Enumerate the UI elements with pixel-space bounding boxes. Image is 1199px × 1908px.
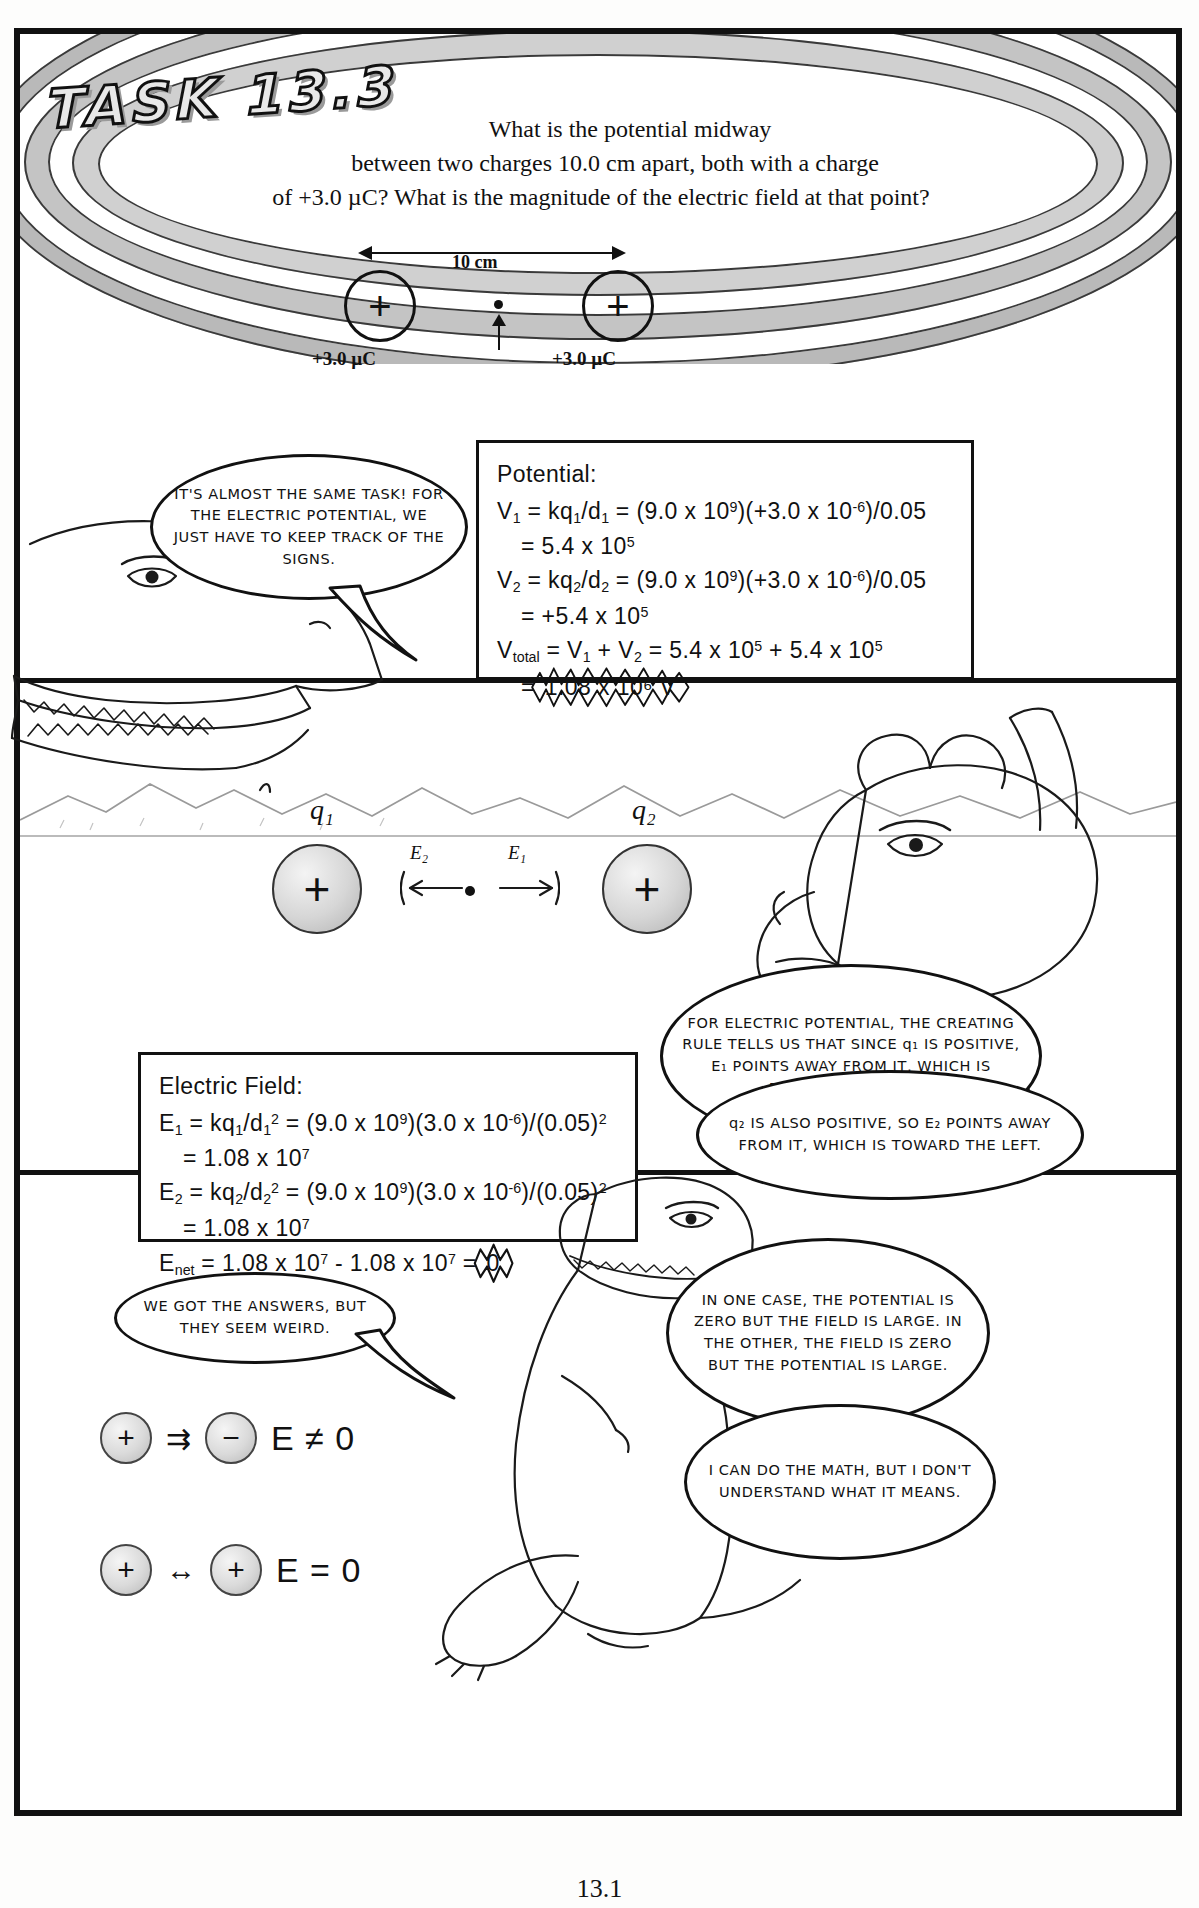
speech-balloon-6-text: I CAN DO THE MATH, BUT I DON'T UNDERSTAN… xyxy=(705,1460,975,1504)
summary-row-like-charges: + ↔ + E = 0 xyxy=(100,1544,361,1596)
q2-label: q₂ xyxy=(632,794,656,826)
top-charge-diagram: 10 cm + + +3.0 µC +3.0 µC xyxy=(320,230,680,370)
field-answer: 0 xyxy=(487,1250,500,1276)
summary-row2-arrow-icon: ↔ xyxy=(166,1553,196,1587)
midpoint-arrow-shaft xyxy=(498,320,500,350)
summary-row-unlike-charges: + ⇉ − E ≠ 0 xyxy=(100,1412,355,1464)
minus-icon: − xyxy=(222,1421,240,1455)
field-line-2: = 1.08 x 107 xyxy=(159,1141,617,1176)
potential-formula-box: Potential: V1 = kq1/d1 = (9.0 x 109)(+3.… xyxy=(476,440,974,680)
field-line-3: E2 = kq2/d22 = (9.0 x 109)(3.0 x 10-6)/(… xyxy=(159,1175,617,1210)
potential-box-heading: Potential: xyxy=(497,457,953,492)
midpoint-dot xyxy=(494,300,503,309)
summary-row1-equation: E ≠ 0 xyxy=(271,1419,355,1458)
top-left-charge-label: +3.0 µC xyxy=(312,348,376,370)
potential-line-4: = +5.4 x 105 xyxy=(497,599,953,634)
speech-balloon-5: IN ONE CASE, THE POTENTIAL IS ZERO BUT T… xyxy=(666,1238,990,1428)
potential-answer: 1.08 x 10⁶ V xyxy=(545,674,676,700)
q1-label: q₁ xyxy=(310,794,334,826)
problem-line-2: between two charges 10.0 cm apart, both … xyxy=(240,146,990,180)
speech-balloon-1-text: IT'S ALMOST THE SAME TASK! FOR THE ELECT… xyxy=(171,484,447,571)
plus-icon: + xyxy=(304,862,331,916)
potential-line-6: = 1.08 x 10⁶ V xyxy=(497,669,953,706)
plus-icon: + xyxy=(368,286,391,326)
e2-label: E₂ xyxy=(410,842,428,864)
potential-line-1: V1 = kq1/d1 = (9.0 x 109)(+3.0 x 10-6)/0… xyxy=(497,494,953,529)
field-line-4: = 1.08 x 107 xyxy=(159,1211,617,1246)
mid-right-charge: + xyxy=(602,844,692,934)
summary-row2-equation: E = 0 xyxy=(276,1551,361,1590)
speech-balloon-4: WE GOT THE ANSWERS, BUT THEY SEEM WEIRD. xyxy=(114,1272,396,1364)
arrow-right-icon xyxy=(612,246,626,260)
field-formula-box: Electric Field: E1 = kq1/d12 = (9.0 x 10… xyxy=(138,1052,638,1242)
top-right-charge-label: +3.0 µC xyxy=(552,348,616,370)
summary-row1-arrow-icon: ⇉ xyxy=(166,1421,191,1456)
summary-row1-right-charge: − xyxy=(205,1412,257,1464)
mid-left-charge: + xyxy=(272,844,362,934)
potential-line-3: V2 = kq2/d2 = (9.0 x 109)(+3.0 x 10-6)/0… xyxy=(497,563,953,598)
problem-line-3: of +3.0 µC? What is the magnitude of the… xyxy=(212,180,990,214)
speech-balloon-3-text: q₂ IS ALSO POSITIVE, SO E₂ POINTS AWAY F… xyxy=(717,1113,1063,1157)
field-arrows-art xyxy=(400,860,560,918)
plus-icon: + xyxy=(227,1553,245,1587)
speech-balloon-3: q₂ IS ALSO POSITIVE, SO E₂ POINTS AWAY F… xyxy=(696,1070,1084,1200)
top-right-charge: + xyxy=(582,270,654,342)
summary-row2-right-charge: + xyxy=(210,1544,262,1596)
e1-label: E₁ xyxy=(508,842,526,864)
speech-balloon-6: I CAN DO THE MATH, BUT I DON'T UNDERSTAN… xyxy=(684,1404,996,1560)
middle-charge-diagram: q₁ q₂ + + E₂ E₁ xyxy=(250,794,750,974)
midpoint-dot xyxy=(465,886,475,896)
top-left-charge: + xyxy=(344,270,416,342)
comic-frame: TASK 13.3 What is the potential midway b… xyxy=(14,28,1182,1816)
distance-label: 10 cm xyxy=(452,252,497,273)
problem-statement: What is the potential midway between two… xyxy=(270,112,990,214)
plus-icon: + xyxy=(606,286,629,326)
page-number: 13.1 xyxy=(0,1874,1199,1904)
plus-icon: + xyxy=(634,862,661,916)
speech-balloon-1: IT'S ALMOST THE SAME TASK! FOR THE ELECT… xyxy=(150,454,468,600)
plus-icon: + xyxy=(117,1553,135,1587)
field-answer-burst: 0 xyxy=(477,1245,510,1282)
arrow-left-icon xyxy=(358,246,372,260)
summary-row2-left-charge: + xyxy=(100,1544,152,1596)
speech-balloon-5-text: IN ONE CASE, THE POTENTIAL IS ZERO BUT T… xyxy=(687,1290,969,1377)
potential-line-2: = 5.4 x 105 xyxy=(497,529,953,564)
field-line-1: E1 = kq1/d12 = (9.0 x 109)(3.0 x 10-6)/(… xyxy=(159,1106,617,1141)
field-box-heading: Electric Field: xyxy=(159,1069,617,1104)
summary-row1-left-charge: + xyxy=(100,1412,152,1464)
problem-line-1: What is the potential midway xyxy=(270,112,990,146)
speech-balloon-4-text: WE GOT THE ANSWERS, BUT THEY SEEM WEIRD. xyxy=(135,1296,375,1340)
comic-page: TASK 13.3 What is the potential midway b… xyxy=(0,0,1199,1908)
plus-icon: + xyxy=(117,1421,135,1455)
potential-answer-burst: 1.08 x 10⁶ V xyxy=(535,669,686,706)
